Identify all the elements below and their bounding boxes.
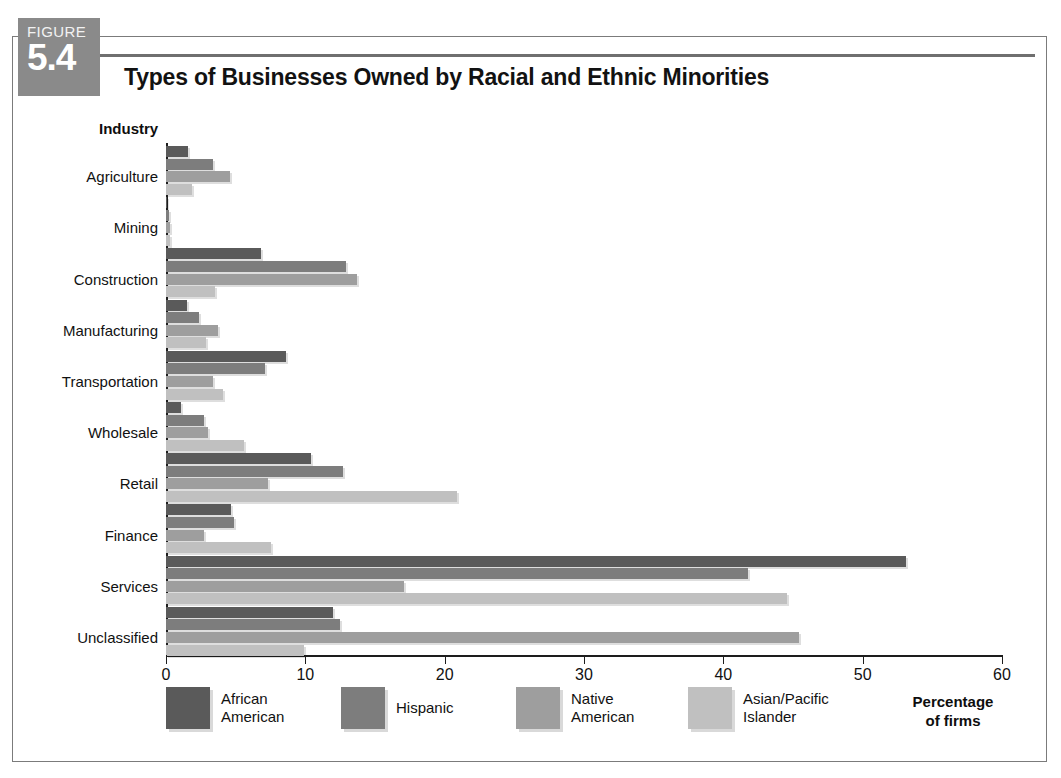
- x-axis-tick-label: 0: [162, 666, 171, 684]
- figure-badge: FIGURE 5.4: [18, 18, 100, 96]
- bar: [166, 235, 170, 246]
- legend-label: African American: [221, 690, 284, 726]
- bar: [166, 159, 213, 170]
- x-axis-tick-label: 60: [993, 666, 1011, 684]
- bar: [166, 363, 265, 374]
- x-axis-tick-label: 50: [854, 666, 872, 684]
- bar: [166, 619, 340, 630]
- category-label: Services: [100, 578, 158, 595]
- legend-label: Native American: [571, 690, 634, 726]
- bar: [166, 337, 206, 348]
- bar: [166, 581, 404, 592]
- category-label: Wholesale: [88, 424, 158, 441]
- x-axis-tick: [584, 655, 585, 664]
- bar: [166, 530, 204, 541]
- bar: [166, 402, 181, 413]
- bar: [166, 517, 234, 528]
- bar: [166, 427, 208, 438]
- bar: [166, 542, 271, 553]
- plot-area: [166, 143, 1004, 655]
- bar: [166, 504, 231, 515]
- x-axis-tick-label: 20: [436, 666, 454, 684]
- bar: [166, 453, 311, 464]
- x-axis-tick: [166, 655, 167, 664]
- category-label: Construction: [74, 271, 158, 288]
- title-rule: [100, 54, 1035, 57]
- bar: [166, 171, 230, 182]
- legend-item[interactable]: Native American: [516, 687, 634, 729]
- figure-badge-number: 5.4: [27, 38, 100, 78]
- bar: [166, 607, 333, 618]
- x-axis-tick: [1002, 655, 1003, 664]
- x-axis-tick: [305, 655, 306, 664]
- bar: [166, 222, 170, 233]
- bar: [166, 312, 199, 323]
- legend-item[interactable]: Asian/Pacific Islander: [688, 687, 829, 729]
- legend-label: Hispanic: [396, 699, 454, 717]
- x-axis-tick-label: 40: [714, 666, 732, 684]
- bar: [166, 300, 187, 311]
- bar: [166, 184, 192, 195]
- chart-legend: African AmericanHispanicNative AmericanA…: [166, 687, 866, 745]
- bar: [166, 632, 799, 643]
- bar: [166, 478, 268, 489]
- bar: [166, 248, 261, 259]
- legend-item[interactable]: African American: [166, 687, 284, 729]
- x-axis-tick-label: 30: [575, 666, 593, 684]
- bar: [166, 376, 213, 387]
- category-label: Transportation: [62, 373, 158, 390]
- bar: [166, 645, 304, 656]
- bar: [166, 197, 167, 208]
- bar: [166, 593, 787, 604]
- legend-swatch: [516, 687, 560, 729]
- legend-swatch: [341, 687, 385, 729]
- category-label: Unclassified: [77, 629, 158, 646]
- bar: [166, 274, 357, 285]
- bar: [166, 568, 748, 579]
- x-axis-tick: [723, 655, 724, 664]
- bar: [166, 325, 218, 336]
- category-label: Finance: [105, 527, 158, 544]
- legend-label: Asian/Pacific Islander: [743, 690, 829, 726]
- category-label: Agriculture: [86, 168, 158, 185]
- bar: [166, 466, 343, 477]
- legend-swatch: [688, 687, 732, 729]
- bar: [166, 286, 215, 297]
- bar: [166, 261, 346, 272]
- y-axis-title: Industry: [99, 120, 158, 137]
- chart-title: Types of Businesses Owned by Racial and …: [124, 64, 769, 91]
- x-axis-tick: [445, 655, 446, 664]
- category-label-list: AgricultureMiningConstructionManufacturi…: [0, 143, 158, 655]
- bar: [166, 210, 169, 221]
- bar: [166, 556, 906, 567]
- bar: [166, 389, 223, 400]
- legend-swatch: [166, 687, 210, 729]
- bar: [166, 146, 188, 157]
- x-axis-tick: [863, 655, 864, 664]
- figure-page: FIGURE 5.4 Types of Businesses Owned by …: [0, 0, 1061, 778]
- x-axis-title: Percentage of firms: [888, 692, 1018, 730]
- x-axis-tick-label: 10: [296, 666, 314, 684]
- bar: [166, 351, 286, 362]
- category-label: Mining: [114, 219, 158, 236]
- legend-item[interactable]: Hispanic: [341, 687, 454, 729]
- bar: [166, 491, 457, 502]
- bar: [166, 415, 204, 426]
- category-label: Manufacturing: [63, 322, 158, 339]
- category-label: Retail: [120, 475, 158, 492]
- bar: [166, 440, 244, 451]
